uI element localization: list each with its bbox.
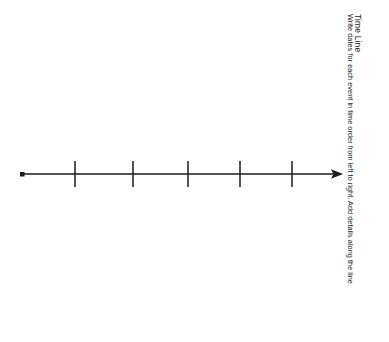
timeline-figure bbox=[0, 0, 389, 342]
timeline-start-dot bbox=[20, 172, 25, 177]
instructions-text: Write dates for each event in time order… bbox=[347, 14, 354, 286]
worksheet-page: Time Line Write dates for each event in … bbox=[0, 0, 389, 342]
